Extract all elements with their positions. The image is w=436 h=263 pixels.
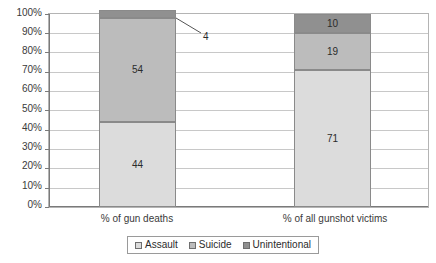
segment-unintentional-gunshot-victims[interactable]: 10: [294, 14, 371, 33]
legend-swatch-unintentional-icon: [243, 242, 250, 249]
y-tick-mark-40: [45, 130, 49, 131]
x-category-label-gunshot-victims: % of all gunshot victims: [240, 213, 430, 225]
bar-gunshot-victims[interactable]: 71 19 10: [294, 14, 371, 207]
plot-area: 44 54 4 71 19 10: [48, 13, 429, 208]
y-tick-mark-20: [45, 168, 49, 169]
segment-label-suicide-gunshot-victims: 19: [327, 47, 338, 57]
y-tick-mark-60: [45, 91, 49, 92]
y-tick-label-70: 70%: [22, 65, 42, 75]
legend: Assault Suicide Unintentional: [127, 236, 319, 254]
y-tick-label-30: 30%: [22, 142, 42, 152]
y-tick-mark-100: [45, 14, 49, 15]
legend-label-assault: Assault: [145, 240, 178, 250]
y-axis: 100% 90% 80% 70% 60% 50% 40% 30% 20% 10%…: [0, 0, 46, 211]
y-tick-mark-90: [45, 33, 49, 34]
legend-item-assault[interactable]: Assault: [135, 240, 178, 250]
segment-label-unintentional-gunshot-victims: 10: [327, 19, 338, 29]
y-tick-label-10: 10%: [22, 181, 42, 191]
segment-suicide-gunshot-victims[interactable]: 19: [294, 33, 371, 70]
segment-assault-gun-deaths[interactable]: 44: [99, 122, 176, 207]
y-tick-label-40: 40%: [22, 123, 42, 133]
segment-label-suicide-gun-deaths: 54: [132, 65, 143, 75]
x-category-label-gun-deaths: % of gun deaths: [52, 213, 222, 225]
y-tick-mark-50: [45, 110, 49, 111]
y-tick-mark-0: [45, 207, 49, 208]
segment-label-assault-gun-deaths: 44: [132, 160, 143, 170]
y-tick-mark-10: [45, 188, 49, 189]
y-tick-label-50: 50%: [22, 104, 42, 114]
y-axis-line: [49, 14, 50, 207]
segment-label-unintentional-gun-deaths: 4: [203, 32, 209, 42]
y-tick-label-20: 20%: [22, 161, 42, 171]
y-tick-mark-70: [45, 72, 49, 73]
segment-assault-gunshot-victims[interactable]: 71: [294, 70, 371, 207]
segment-suicide-gun-deaths[interactable]: 54: [99, 18, 176, 122]
y-tick-mark-30: [45, 149, 49, 150]
legend-swatch-assault-icon: [135, 242, 142, 249]
y-tick-label-100: 100%: [16, 8, 42, 18]
y-tick-label-80: 80%: [22, 46, 42, 56]
y-tick-mark-80: [45, 52, 49, 53]
legend-item-suicide[interactable]: Suicide: [189, 240, 232, 250]
segment-unintentional-gun-deaths[interactable]: [99, 10, 176, 18]
legend-label-suicide: Suicide: [199, 240, 232, 250]
legend-label-unintentional: Unintentional: [253, 240, 311, 250]
legend-swatch-suicide-icon: [189, 242, 196, 249]
legend-item-unintentional[interactable]: Unintentional: [243, 240, 311, 250]
y-tick-label-0: 0%: [28, 200, 42, 210]
y-tick-label-60: 60%: [22, 84, 42, 94]
stacked-bar-chart: 100% 90% 80% 70% 60% 50% 40% 30% 20% 10%…: [0, 0, 436, 263]
bar-gun-deaths[interactable]: 44 54: [99, 14, 176, 207]
y-tick-label-90: 90%: [22, 27, 42, 37]
segment-label-assault-gunshot-victims: 71: [327, 134, 338, 144]
